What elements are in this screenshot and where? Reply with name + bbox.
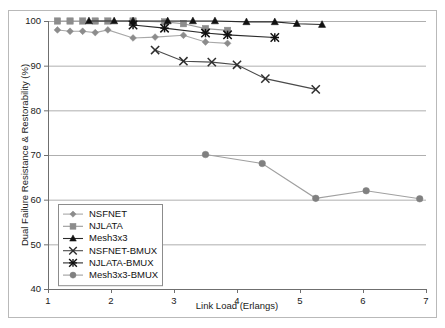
y-tick-label: 40 — [30, 283, 41, 294]
x-tick-label: 7 — [423, 295, 428, 306]
y-tick-label: 60 — [30, 194, 41, 205]
y-tick-label: 70 — [30, 149, 41, 160]
marker-square — [79, 18, 85, 24]
legend-label: Mesh3x3-BMUX — [89, 269, 159, 280]
marker-star — [69, 259, 77, 267]
chart-legend: NSFNETNJLATAMesh3x3NSFNET-BMUXNJLATA-BMU… — [59, 205, 163, 286]
marker-circle — [202, 151, 209, 158]
marker-circle — [363, 187, 370, 194]
marker-star — [201, 29, 209, 37]
y-tick-label: 80 — [30, 105, 41, 116]
marker-square — [54, 18, 60, 24]
x-tick-label: 5 — [297, 295, 302, 306]
y-axis-title: Dual Failure Resistance & Restorability … — [19, 64, 30, 246]
legend-label: NSFNET-BMUX — [89, 245, 158, 256]
y-tick-label: 100 — [25, 15, 41, 26]
y-tick-label: 90 — [30, 60, 41, 71]
marker-star — [129, 21, 137, 29]
marker-square — [67, 18, 73, 24]
legend-label: Mesh3x3 — [89, 232, 128, 243]
legend-label: NJLATA — [89, 220, 124, 231]
x-axis-title: Link Load (Erlangs) — [196, 300, 278, 311]
marker-circle — [416, 195, 423, 202]
legend-label: NJLATA-BMUX — [89, 257, 154, 268]
x-tick-label: 1 — [45, 295, 50, 306]
marker-star — [271, 33, 279, 41]
x-tick-label: 3 — [171, 295, 176, 306]
dual-failure-restorability-line-chart: 405060708090100 1234567 Link Load (Erlan… — [0, 0, 445, 328]
y-tick-label: 50 — [30, 239, 41, 250]
marker-square — [70, 223, 76, 229]
x-tick-label: 2 — [108, 295, 113, 306]
legend-label: NSFNET — [89, 208, 127, 219]
chart-container: 405060708090100 1234567 Link Load (Erlan… — [0, 0, 445, 328]
marker-circle — [259, 160, 266, 167]
marker-star — [223, 31, 231, 39]
marker-star — [160, 24, 168, 32]
marker-circle — [70, 272, 76, 278]
marker-circle — [312, 195, 319, 202]
x-tick-label: 6 — [360, 295, 365, 306]
